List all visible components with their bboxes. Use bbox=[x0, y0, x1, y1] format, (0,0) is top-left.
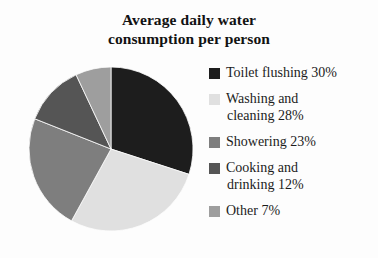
page-title: Average daily water consumption per pers… bbox=[0, 10, 378, 48]
legend-label-line-2: cleaning 28% bbox=[226, 107, 304, 124]
title-line-2: consumption per person bbox=[0, 29, 378, 48]
legend-item-label: Other 7% bbox=[226, 202, 280, 219]
legend-item[interactable]: Showering 23% bbox=[209, 133, 375, 150]
legend-item[interactable]: Cooking anddrinking 12% bbox=[209, 159, 375, 193]
legend-swatch-showering bbox=[209, 137, 220, 148]
legend-item-label: Toilet flushing 30% bbox=[226, 64, 337, 81]
pie-slices-group bbox=[29, 67, 193, 231]
legend-item[interactable]: Washing andcleaning 28% bbox=[209, 90, 375, 124]
legend-item[interactable]: Toilet flushing 30% bbox=[209, 64, 375, 81]
legend-swatch-cooking-and-drinking bbox=[209, 163, 220, 174]
pie-chart-figure: Average daily water consumption per pers… bbox=[0, 0, 378, 258]
legend-label-line-1: Other 7% bbox=[226, 202, 280, 219]
legend-label-line-1: Showering 23% bbox=[226, 133, 316, 150]
legend-swatch-washing-and-cleaning bbox=[209, 94, 220, 105]
legend-label-line-1: Cooking and bbox=[226, 159, 304, 176]
legend-item-label: Washing andcleaning 28% bbox=[226, 90, 304, 124]
legend-item-label: Showering 23% bbox=[226, 133, 316, 150]
legend-swatch-toilet-flushing bbox=[209, 68, 220, 79]
pie-svg bbox=[28, 67, 194, 231]
chart-legend: Toilet flushing 30%Washing andcleaning 2… bbox=[209, 64, 375, 228]
legend-label-line-1: Washing and bbox=[226, 90, 304, 107]
legend-label-line-2: drinking 12% bbox=[226, 176, 304, 193]
legend-swatch-other bbox=[209, 206, 220, 217]
title-line-1: Average daily water bbox=[0, 10, 378, 29]
legend-item[interactable]: Other 7% bbox=[209, 202, 375, 219]
pie-chart-graphic bbox=[28, 67, 194, 231]
legend-label-line-1: Toilet flushing 30% bbox=[226, 64, 337, 81]
legend-item-label: Cooking anddrinking 12% bbox=[226, 159, 304, 193]
